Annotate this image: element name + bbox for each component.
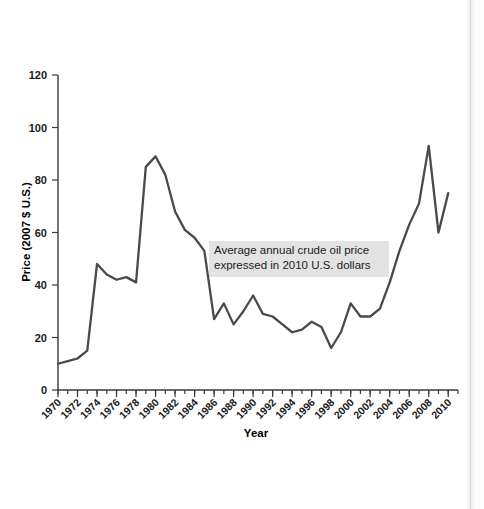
x-tick-label: 1992 [253, 396, 278, 421]
y-tick-label: 80 [35, 174, 47, 186]
x-tick-label: 1982 [155, 396, 180, 421]
x-tick-label: 1980 [136, 396, 161, 421]
x-tick-label: 2010 [429, 396, 454, 421]
x-tick-label: 1990 [234, 396, 259, 421]
chart-annotation: Average annual crude oil price expressed… [209, 241, 389, 277]
x-tick-label: 2006 [390, 396, 415, 421]
x-tick-label: 1998 [312, 396, 337, 421]
x-tick-label: 2002 [351, 396, 376, 421]
oil-price-line-chart: Price (2007 $ U.S.) Year 020406080100120… [0, 0, 484, 509]
x-tick-label: 1996 [292, 396, 317, 421]
x-tick-label: 2000 [331, 396, 356, 421]
chart-svg: Price (2007 $ U.S.) Year 020406080100120… [0, 0, 484, 509]
x-tick-label: 2004 [370, 396, 395, 421]
x-tick-label: 1972 [58, 396, 83, 421]
page-edge-line [470, 0, 471, 509]
x-tick-label: 2008 [409, 396, 434, 421]
x-tick-label: 1978 [116, 396, 141, 421]
y-tick-label: 40 [35, 279, 47, 291]
x-tick-label: 1986 [195, 396, 220, 421]
x-axis-title-text: Year [244, 427, 269, 439]
annotation-line-1: Average annual crude oil price [214, 244, 369, 256]
x-tick-label: 1976 [97, 396, 122, 421]
y-axis-ticks: 020406080100120 [29, 69, 58, 396]
y-axis-title: Price (2007 $ U.S.) [20, 182, 32, 282]
page-edge-shadow [462, 0, 484, 509]
y-tick-label: 20 [35, 332, 47, 344]
y-tick-label: 0 [41, 384, 47, 396]
x-tick-label: 1970 [38, 396, 63, 421]
chart-page: Price (2007 $ U.S.) Year 020406080100120… [0, 0, 484, 509]
y-tick-label: 120 [29, 69, 47, 81]
x-tick-label: 1988 [214, 396, 239, 421]
y-tick-label: 100 [29, 122, 47, 134]
x-tick-label: 1974 [77, 396, 102, 421]
annotation-line-2: expressed in 2010 U.S. dollars [214, 259, 371, 271]
x-tick-label: 1994 [273, 396, 298, 421]
x-axis-ticks: 1970197219741976197819801982198419861988… [38, 390, 453, 421]
y-axis-title-text: Price (2007 $ U.S.) [20, 182, 32, 282]
x-tick-label: 1984 [175, 396, 200, 421]
y-tick-label: 60 [35, 227, 47, 239]
